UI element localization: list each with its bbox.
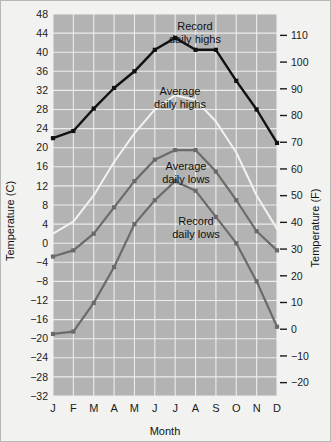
month-tick-label: N bbox=[253, 402, 261, 414]
annotation-record-lows: Recorddaily lows bbox=[172, 215, 220, 240]
annotation-line-2: daily highs bbox=[154, 98, 206, 110]
left-tick-label: 16 bbox=[36, 160, 48, 172]
left-tick-label: −32 bbox=[30, 390, 48, 402]
left-tick-label: −20 bbox=[30, 332, 48, 344]
right-axis-ticks: 1101009080706050403020100−10−20 bbox=[280, 29, 309, 388]
left-tick-label: 20 bbox=[36, 141, 48, 153]
left-axis-ticks: 48444036322824201612840−4−8−12−16−20−24−… bbox=[30, 8, 48, 402]
right-tick-label: 0 bbox=[291, 323, 297, 335]
right-tick-label: 30 bbox=[291, 243, 303, 255]
month-tick-label: A bbox=[192, 402, 200, 414]
left-tick-label: −8 bbox=[36, 275, 48, 287]
left-tick-label: 8 bbox=[42, 199, 48, 211]
month-tick-label: J bbox=[152, 402, 158, 414]
right-tick-label: 110 bbox=[291, 29, 308, 41]
annotation-line-2: daily lows bbox=[172, 228, 220, 240]
month-tick-label: J bbox=[50, 402, 56, 414]
month-tick-label: F bbox=[70, 402, 77, 414]
left-tick-label: −24 bbox=[30, 351, 48, 363]
y-axis-left-title: Temperature (C) bbox=[4, 181, 16, 261]
month-tick-label: J bbox=[172, 402, 178, 414]
left-tick-label: −12 bbox=[30, 294, 48, 306]
annotation-line-1: Record bbox=[177, 20, 212, 32]
annotation-line-1: Record bbox=[178, 215, 213, 227]
annotation-line-1: Average bbox=[166, 160, 207, 172]
left-tick-label: 44 bbox=[36, 27, 48, 39]
left-tick-label: 36 bbox=[36, 65, 48, 77]
annotation-line-2: daily highs bbox=[169, 33, 221, 45]
left-tick-label: −4 bbox=[36, 256, 48, 268]
left-tick-label: 28 bbox=[36, 103, 48, 115]
left-tick-label: 12 bbox=[36, 180, 48, 192]
temperature-line-chart: 48444036322824201612840−4−8−12−16−20−24−… bbox=[0, 0, 331, 442]
left-tick-label: 24 bbox=[36, 122, 48, 134]
left-tick-label: 32 bbox=[36, 84, 48, 96]
annotation-line-1: Average bbox=[160, 85, 201, 97]
right-tick-label: −20 bbox=[291, 376, 309, 388]
annotation-line-2: daily lows bbox=[162, 173, 210, 185]
right-tick-label: 10 bbox=[291, 296, 303, 308]
right-tick-label: 80 bbox=[291, 109, 303, 121]
right-tick-label: 90 bbox=[291, 83, 303, 95]
month-tick-label: A bbox=[110, 402, 118, 414]
left-tick-label: 4 bbox=[42, 218, 48, 230]
month-tick-label: O bbox=[232, 402, 241, 414]
left-tick-label: 40 bbox=[36, 46, 48, 58]
annotation-average-lows: Averagedaily lows bbox=[162, 160, 210, 185]
right-tick-label: 20 bbox=[291, 270, 303, 282]
month-tick-label: M bbox=[130, 402, 139, 414]
month-tick-label: S bbox=[212, 402, 219, 414]
left-tick-label: 0 bbox=[42, 237, 48, 249]
left-tick-label: 48 bbox=[36, 8, 48, 20]
left-tick-label: −16 bbox=[30, 313, 48, 325]
chart-figure: 48444036322824201612840−4−8−12−16−20−24−… bbox=[0, 0, 331, 442]
month-tick-label: M bbox=[89, 402, 98, 414]
right-tick-label: 50 bbox=[291, 189, 303, 201]
y-axis-right-title: Temperature (F) bbox=[309, 189, 321, 268]
right-tick-label: 60 bbox=[291, 163, 303, 175]
right-tick-label: 70 bbox=[291, 136, 303, 148]
x-axis-month-labels: JFMAMJJASOND bbox=[50, 402, 281, 414]
left-tick-label: −28 bbox=[30, 371, 48, 383]
annotation-average-highs: Averagedaily highs bbox=[154, 85, 206, 110]
month-tick-label: D bbox=[273, 402, 281, 414]
x-axis-title: Month bbox=[150, 425, 181, 437]
right-tick-label: −10 bbox=[291, 350, 309, 362]
right-tick-label: 100 bbox=[291, 56, 309, 68]
right-tick-label: 40 bbox=[291, 216, 303, 228]
